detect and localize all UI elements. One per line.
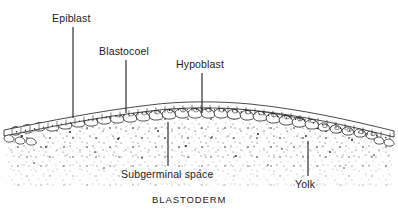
- label-blastocoel: Blastocoel: [99, 45, 149, 57]
- label-yolk: Yolk: [295, 178, 315, 190]
- label-hypoblast: Hypoblast: [176, 58, 224, 70]
- label-epiblast: Epiblast: [52, 12, 91, 24]
- figure-caption: BLASTODERM: [152, 194, 226, 206]
- label-subgerminal-space: Subgerminal space: [121, 168, 213, 180]
